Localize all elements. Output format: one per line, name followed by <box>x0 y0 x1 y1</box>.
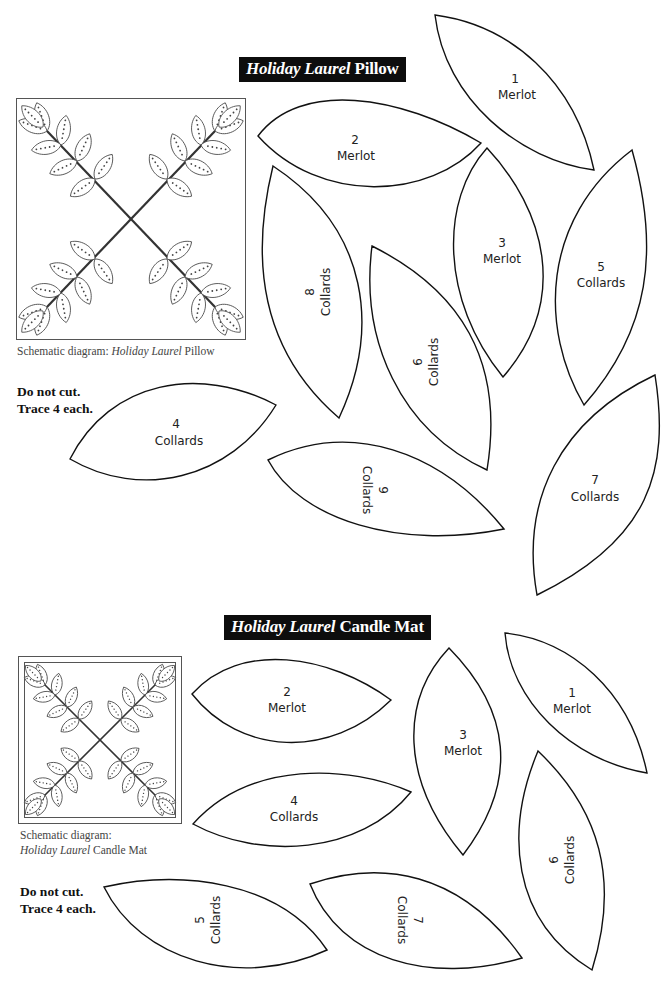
piece-number: 8 <box>303 288 317 296</box>
piece-number: 7 <box>591 473 599 487</box>
candle-mat-piece-5: 5 Collards <box>104 880 327 968</box>
piece-fabric: Collards <box>563 836 577 884</box>
candle-mat-piece-3: 3 Merlot <box>414 648 501 855</box>
piece-number: 9 <box>376 486 390 494</box>
piece-fabric: Merlot <box>483 252 521 266</box>
piece-number: 3 <box>498 236 506 250</box>
piece-fabric: Merlot <box>268 701 306 715</box>
pillow-piece-5: 5 Collards <box>555 150 646 405</box>
piece-number: 1 <box>511 72 519 86</box>
piece-fabric: Collards <box>577 276 625 290</box>
piece-number: 6 <box>411 358 425 366</box>
piece-number: 5 <box>193 916 207 924</box>
piece-fabric: Merlot <box>337 149 375 163</box>
pillow-piece-4: 4 Collards <box>70 384 276 480</box>
piece-number: 4 <box>290 794 298 808</box>
piece-fabric: Collards <box>571 490 619 504</box>
candle-mat-piece-1: 1 Merlot <box>505 633 647 773</box>
pillow-piece-7: 7 Collards <box>533 375 659 595</box>
piece-fabric: Collards <box>427 338 441 386</box>
piece-number: 7 <box>411 916 425 924</box>
piece-fabric: Collards <box>209 896 223 944</box>
candle-mat-piece-4: 4 Collards <box>193 773 411 846</box>
piece-number: 2 <box>351 133 359 147</box>
piece-fabric: Collards <box>395 896 409 944</box>
template-pieces: 1 Merlot 2 Merlot 3 Merlot 5 Collards 8 … <box>0 0 662 982</box>
piece-number: 2 <box>283 685 291 699</box>
piece-number: 1 <box>568 686 576 700</box>
piece-fabric: Collards <box>360 466 374 514</box>
piece-fabric: Collards <box>319 268 333 316</box>
piece-fabric: Merlot <box>553 702 591 716</box>
candle-mat-piece-2: 2 Merlot <box>192 659 391 742</box>
piece-fabric: Collards <box>270 810 318 824</box>
candle-mat-piece-7: 7 Collards <box>310 873 522 969</box>
piece-number: 3 <box>459 728 467 742</box>
piece-number: 5 <box>597 260 605 274</box>
piece-fabric: Merlot <box>444 744 482 758</box>
pillow-piece-8: 8 Collards <box>262 166 362 418</box>
piece-fabric: Collards <box>155 434 203 448</box>
pillow-piece-2: 2 Merlot <box>258 100 481 187</box>
piece-number: 6 <box>547 856 561 864</box>
candle-mat-piece-6: 6 Collards <box>519 751 604 970</box>
piece-fabric: Merlot <box>498 88 536 102</box>
piece-number: 4 <box>172 417 180 431</box>
